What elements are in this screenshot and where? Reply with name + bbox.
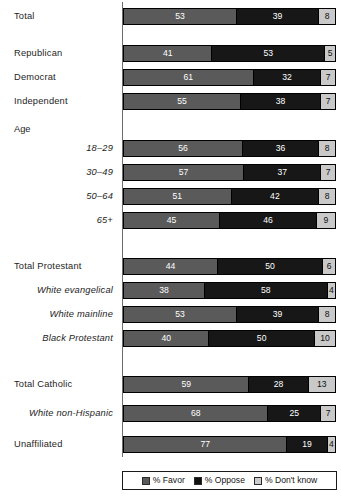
bar-value-label: 45 bbox=[167, 216, 177, 225]
bar-value-label: 37 bbox=[277, 168, 287, 177]
bar-segment-dk: 7 bbox=[320, 94, 335, 109]
bar-value-label: 8 bbox=[325, 310, 330, 319]
bar-row: 53398 bbox=[123, 8, 336, 25]
bar-segment-oppose: 32 bbox=[253, 70, 321, 85]
bar-value-label: 59 bbox=[181, 380, 191, 389]
bar-segment-dk: 7 bbox=[320, 70, 335, 85]
row-label: Total Catholic bbox=[14, 379, 72, 390]
bar-segment-oppose: 46 bbox=[219, 213, 316, 228]
bar-segment-favor: 77 bbox=[124, 437, 286, 452]
bar-value-label: 36 bbox=[276, 144, 286, 153]
bar-segment-oppose: 36 bbox=[242, 141, 318, 156]
bar-segment-dk: 8 bbox=[318, 307, 335, 322]
row-label: Total bbox=[14, 11, 35, 22]
legend-item: % Don't know bbox=[254, 476, 317, 485]
bar-value-label: 10 bbox=[320, 334, 330, 343]
row-label: Independent bbox=[14, 96, 68, 107]
bar-row: 44506 bbox=[123, 258, 336, 275]
bar-value-label: 40 bbox=[161, 334, 171, 343]
bar-row: 38584 bbox=[123, 282, 336, 299]
bar-value-label: 4 bbox=[329, 286, 334, 295]
bar-value-label: 38 bbox=[159, 286, 169, 295]
bar-value-label: 32 bbox=[282, 73, 292, 82]
bar-segment-favor: 40 bbox=[124, 331, 208, 346]
chart-legend: % Favor% Oppose% Don't know bbox=[122, 471, 337, 490]
bar-segment-oppose: 25 bbox=[267, 406, 320, 421]
bar-row: 53398 bbox=[123, 306, 336, 323]
bar-segment-oppose: 50 bbox=[217, 259, 323, 274]
row-label: White mainline bbox=[49, 309, 113, 320]
bar-segment-dk: 6 bbox=[322, 259, 335, 274]
bar-row: 68257 bbox=[123, 405, 336, 422]
row-label: Unaffiliated bbox=[14, 439, 63, 450]
legend-label: % Oppose bbox=[205, 476, 245, 485]
bar-value-label: 6 bbox=[327, 262, 332, 271]
bar-value-label: 68 bbox=[191, 409, 201, 418]
bar-value-label: 4 bbox=[329, 440, 334, 449]
bar-row: 56368 bbox=[123, 140, 336, 157]
bar-value-label: 61 bbox=[184, 73, 194, 82]
row-label: Black Protestant bbox=[42, 333, 113, 344]
bar-segment-dk: 8 bbox=[318, 9, 335, 24]
bar-segment-favor: 57 bbox=[124, 165, 243, 180]
bar-segment-dk: 7 bbox=[320, 406, 335, 421]
bar-row: 51428 bbox=[123, 188, 336, 205]
bar-value-label: 38 bbox=[276, 97, 286, 106]
row-label: 65+ bbox=[97, 215, 113, 226]
bar-segment-oppose: 50 bbox=[208, 331, 314, 346]
bar-row: 405010 bbox=[123, 330, 336, 347]
row-label: 50–64 bbox=[86, 191, 113, 202]
legend-swatch-favor bbox=[142, 477, 150, 485]
stacked-bar-chart: AgeTotalRepublicanDemocratIndependent18–… bbox=[0, 0, 341, 497]
bar-segment-dk: 9 bbox=[316, 213, 335, 228]
bar-value-label: 46 bbox=[263, 216, 273, 225]
bar-segment-dk: 5 bbox=[324, 46, 335, 61]
bar-value-label: 5 bbox=[328, 49, 333, 58]
bar-value-label: 13 bbox=[317, 380, 327, 389]
row-label: Total Protestant bbox=[14, 261, 82, 272]
bar-segment-favor: 55 bbox=[124, 94, 240, 109]
bar-segment-favor: 38 bbox=[124, 283, 204, 298]
bar-segment-oppose: 38 bbox=[240, 94, 320, 109]
group-header: Age bbox=[14, 124, 31, 135]
row-label: 30–49 bbox=[86, 167, 113, 178]
bar-segment-dk: 8 bbox=[318, 141, 335, 156]
bar-value-label: 8 bbox=[325, 12, 330, 21]
bar-segment-favor: 44 bbox=[124, 259, 217, 274]
bar-value-label: 8 bbox=[325, 192, 330, 201]
bar-value-label: 58 bbox=[261, 286, 271, 295]
row-label: White non-Hispanic bbox=[29, 408, 113, 419]
bar-value-label: 53 bbox=[175, 310, 185, 319]
bar-row: 57377 bbox=[123, 164, 336, 181]
bar-value-label: 19 bbox=[302, 440, 312, 449]
bar-segment-favor: 51 bbox=[124, 189, 231, 204]
bar-value-label: 50 bbox=[257, 334, 267, 343]
bar-value-label: 57 bbox=[179, 168, 189, 177]
bar-segment-favor: 53 bbox=[124, 307, 236, 322]
row-label: 18–29 bbox=[86, 143, 113, 154]
bar-value-label: 77 bbox=[200, 440, 210, 449]
bar-value-label: 7 bbox=[326, 168, 331, 177]
bar-segment-dk: 7 bbox=[320, 165, 335, 180]
bar-segment-favor: 56 bbox=[124, 141, 242, 156]
legend-label: % Favor bbox=[153, 476, 185, 485]
bar-value-label: 50 bbox=[265, 262, 275, 271]
bar-value-label: 9 bbox=[324, 216, 329, 225]
bar-value-label: 51 bbox=[172, 192, 182, 201]
bar-segment-dk: 10 bbox=[314, 331, 335, 346]
row-label: White evangelical bbox=[37, 285, 113, 296]
bar-value-label: 41 bbox=[163, 49, 173, 58]
bar-row: 77194 bbox=[123, 436, 336, 453]
bar-value-label: 53 bbox=[264, 49, 274, 58]
bar-segment-dk: 4 bbox=[327, 437, 335, 452]
bar-segment-oppose: 39 bbox=[236, 307, 318, 322]
bar-segment-favor: 45 bbox=[124, 213, 219, 228]
legend-item: % Favor bbox=[142, 476, 185, 485]
bar-segment-oppose: 37 bbox=[243, 165, 320, 180]
bar-segment-oppose: 28 bbox=[248, 377, 307, 392]
bar-value-label: 39 bbox=[273, 12, 283, 21]
bar-segment-favor: 59 bbox=[124, 377, 248, 392]
bar-value-label: 7 bbox=[326, 97, 331, 106]
bar-value-label: 25 bbox=[290, 409, 300, 418]
row-label: Democrat bbox=[14, 72, 56, 83]
